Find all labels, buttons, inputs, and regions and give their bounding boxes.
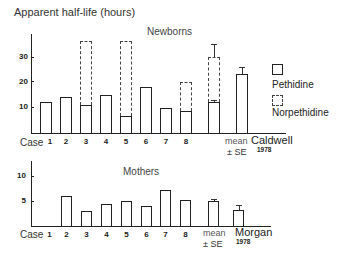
bar-pethidine xyxy=(236,74,248,134)
bar-pethidine xyxy=(160,108,172,135)
bar-norpethidine xyxy=(208,57,220,103)
y-tick-label: 5 xyxy=(8,196,26,205)
error-bar-cap xyxy=(236,205,242,206)
bar-pethidine xyxy=(160,190,171,227)
x-tick-label: 5 xyxy=(120,230,134,239)
bar-pethidine xyxy=(121,201,132,227)
bar-pethidine xyxy=(40,102,52,134)
bar-pethidine xyxy=(81,211,92,227)
bar-pethidine xyxy=(208,102,220,134)
panel-title-mothers: Mothers xyxy=(123,166,159,177)
bar-pethidine xyxy=(180,111,192,134)
ref-year: 1978 xyxy=(236,238,250,245)
bar-norpethidine xyxy=(120,41,132,116)
y-tick-label: 30 xyxy=(10,52,28,61)
x-tick-label: 7 xyxy=(159,137,173,146)
ref-name-caldwell: Caldwell xyxy=(251,134,293,146)
bar-pethidine xyxy=(140,87,152,134)
bar-pethidine xyxy=(233,210,244,228)
bar-pethidine xyxy=(61,196,72,227)
se-label: ± SE xyxy=(203,239,222,249)
legend-norpethidine-swatch xyxy=(272,95,283,106)
x-tick-label: 8 xyxy=(179,137,193,146)
legend-pethidine-swatch xyxy=(272,64,283,75)
y-tick xyxy=(31,176,34,177)
bar-pethidine xyxy=(208,201,219,227)
y-tick xyxy=(31,57,34,58)
error-bar-cap xyxy=(239,67,245,68)
y-tick-label: 10 xyxy=(8,171,26,180)
x-tick-label: 3 xyxy=(80,230,94,239)
y-tick xyxy=(31,201,34,202)
ref-name-morgan: Morgan xyxy=(235,226,272,238)
error-bar xyxy=(214,44,215,57)
x-tick-label: 6 xyxy=(139,137,153,146)
panel-title-newborns: Newborns xyxy=(147,26,192,37)
y-axis-title: Apparent half-life (hours) xyxy=(14,6,135,18)
x-tick-label: 6 xyxy=(140,230,154,239)
bar-norpethidine xyxy=(180,82,192,111)
legend-norpethidine-label: Norpethidine xyxy=(272,107,329,118)
error-bar-cap xyxy=(211,44,217,45)
error-bar-cap xyxy=(211,100,217,101)
bar-pethidine xyxy=(60,97,72,134)
y-tick xyxy=(31,81,34,82)
x-tick-label: 8 xyxy=(179,230,193,239)
mean-label: mean xyxy=(225,136,248,146)
bar-norpethidine xyxy=(80,41,92,105)
bar-pethidine xyxy=(141,206,152,227)
y-tick-label: 20 xyxy=(10,77,28,86)
legend-pethidine-label: Pethidine xyxy=(272,79,314,90)
error-bar xyxy=(242,67,243,75)
y-axis xyxy=(31,34,32,134)
case-label: Case xyxy=(20,229,43,240)
ref-year: 1978 xyxy=(257,146,271,153)
x-tick-label: 2 xyxy=(59,137,73,146)
error-bar-cap xyxy=(211,199,217,200)
case-label: Case xyxy=(20,137,43,148)
bar-pethidine xyxy=(101,204,112,228)
x-tick-label: 5 xyxy=(119,137,133,146)
bar-pethidine xyxy=(120,116,132,134)
y-tick-label: 10 xyxy=(10,102,28,111)
x-tick-label: 1 xyxy=(43,230,57,239)
bar-pethidine xyxy=(180,200,191,228)
x-tick-label: 7 xyxy=(159,230,173,239)
y-tick xyxy=(31,107,34,108)
x-tick-label: 2 xyxy=(60,230,74,239)
x-tick-label: 4 xyxy=(100,230,114,239)
se-label: ± SE xyxy=(227,147,246,157)
x-tick-label: 1 xyxy=(43,137,57,146)
bar-pethidine xyxy=(80,105,92,134)
y-axis xyxy=(31,161,32,227)
bar-pethidine xyxy=(100,95,112,134)
mean-label: mean xyxy=(203,228,226,238)
x-tick-label: 3 xyxy=(79,137,93,146)
x-tick-label: 4 xyxy=(99,137,113,146)
